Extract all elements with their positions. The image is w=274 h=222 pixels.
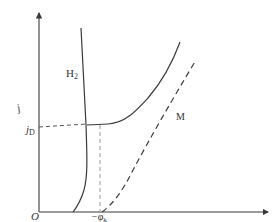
y-axis-label: j <box>13 101 22 114</box>
phi-label: −φk <box>91 211 107 222</box>
h2-curve-label: H2 <box>66 67 78 81</box>
jd-guide-line <box>39 124 87 127</box>
metal-curve <box>102 60 196 212</box>
total-curve <box>87 42 180 125</box>
jd-label: jD <box>24 123 35 137</box>
h2-curve <box>73 28 87 212</box>
origin-label: O <box>31 210 39 222</box>
metal-curve-label: M <box>176 111 185 122</box>
polarization-diagram: j jD O −φk H2 M <box>0 0 274 222</box>
